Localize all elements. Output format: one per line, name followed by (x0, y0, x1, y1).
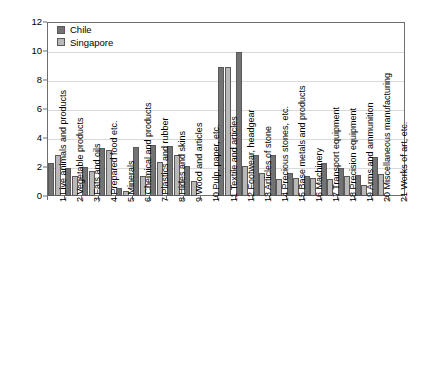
x-axis-tick-label: 3 Fats and oils (93, 143, 102, 202)
y-axis-tick-label: 2 (37, 162, 42, 172)
x-axis-tick-label: 10 Pulp, paper, etc. (212, 124, 221, 202)
legend-swatch-icon (57, 38, 65, 46)
x-axis-tick-label: 6 Chemical and products (144, 102, 153, 202)
legend-swatch-icon (57, 26, 65, 34)
legend-label: Chile (70, 25, 92, 35)
x-axis-tick-label: 20 Miscellaneous manufacturing (383, 73, 392, 202)
bar-chart: 024681012 1 Live animals and products2 V… (0, 0, 424, 371)
y-axis-tick-label: 0 (37, 191, 42, 201)
x-axis-tick-label: 18 Precision equipment (349, 108, 358, 202)
x-axis-tick-label: 2 Vegetable products (76, 117, 85, 202)
chart-legend: ChileSingapore (57, 25, 113, 47)
y-axis-tick-label: 4 (37, 133, 42, 143)
x-axis-tick-label: 4 Prepared food etc. (110, 120, 119, 202)
x-axis-tick-label: 13 Articles of stone (264, 126, 273, 202)
x-axis-tick-label: 9 Wood and articles (195, 123, 204, 202)
x-axis-tick-label: 14 Precious stones, etc. (281, 106, 290, 202)
legend-entry: Chile (57, 25, 113, 35)
legend-label: Singapore (70, 38, 113, 48)
y-axis-tick-label: 12 (31, 17, 42, 27)
x-axis-tick-label: 15 Base metals and products (298, 85, 307, 202)
x-axis-tick-label: 7 Plastics and rubber (161, 117, 170, 202)
x-axis-tick-label: 21 Works of art, etc. (400, 122, 409, 202)
x-axis-labels: 1 Live animals and products2 Vegetable p… (47, 200, 405, 368)
y-axis-tick-label: 10 (31, 46, 42, 56)
legend-entry: Singapore (57, 38, 113, 48)
x-axis-tick-label: 16 Machinery (315, 148, 324, 202)
y-axis-tick-label: 6 (37, 104, 42, 114)
bar-chile (48, 163, 54, 196)
x-axis-tick-label: 8 Hides and skins (178, 131, 187, 202)
y-axis-tick-label: 8 (37, 75, 42, 85)
x-axis-tick-label: 1 Live animals and products (59, 90, 68, 202)
x-axis-tick-label: 5 Minerals (127, 160, 136, 202)
y-axis: 024681012 (0, 0, 47, 196)
x-axis-tick-label: 12 Footwear, headgear (247, 109, 256, 202)
x-axis-tick-label: 11 Textile and articles (230, 116, 239, 202)
x-axis-tick-label: 17 Transport equipment (332, 107, 341, 202)
x-axis-tick-label: 19 Arms and ammunition (366, 102, 375, 202)
